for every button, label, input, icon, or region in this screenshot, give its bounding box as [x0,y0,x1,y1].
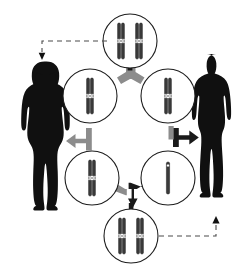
cell-lower-right[interactable] [141,151,195,205]
chromosome [166,162,169,194]
diagram-canvas [0,0,251,276]
life-cycle-diagram [0,0,251,276]
cell-lower-left[interactable] [65,151,119,205]
cell-membrane [103,14,157,68]
cell-top[interactable] [103,14,157,68]
cell-membrane [104,209,158,263]
cell-upper-left[interactable] [63,69,117,123]
cell-bottom[interactable] [104,209,158,263]
cell-upper-right[interactable] [141,69,195,123]
